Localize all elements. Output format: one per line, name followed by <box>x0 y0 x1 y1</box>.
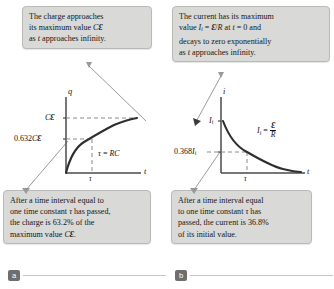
annotation-initial-current: Ii = ƐR <box>257 122 276 139</box>
leader-notch-top <box>218 72 224 78</box>
symbol-emf: Ɛ <box>37 134 41 143</box>
leader-notch-bottom <box>190 188 198 194</box>
leader-line-bottom <box>26 141 68 190</box>
charging-curve <box>66 118 137 173</box>
x-tick-label-tau: τ <box>244 175 247 182</box>
symbol-subscript-i: i <box>212 119 214 125</box>
panel-b-graphics <box>167 0 334 289</box>
figure-marker-a: a <box>8 270 166 281</box>
y-tick-label-max: CƐ <box>45 114 54 122</box>
symbol-emf: Ɛ <box>50 113 54 122</box>
figure-marker-b: b <box>175 270 333 281</box>
marker-rule-a <box>23 275 166 276</box>
marker-badge-a: a <box>8 270 20 281</box>
x-axis-label-text: t <box>307 167 309 176</box>
leader-line-top <box>89 66 146 121</box>
x-tick-label-tau: τ <box>89 175 92 182</box>
leader-notch-top <box>86 62 92 68</box>
annotation-tau-equals-rc: τ = RC <box>98 150 120 158</box>
leader-line-top <box>197 76 221 120</box>
panel-b-current: The current has its maximum value Ii = Ɛ… <box>167 0 334 289</box>
symbol-rc: RC <box>109 149 119 158</box>
symbol-resistance: R <box>270 130 277 139</box>
y-axis-label-text: q <box>68 87 72 96</box>
symbol-subscript-i: i <box>195 150 197 156</box>
symbol-tau: τ <box>244 174 247 183</box>
tick-coefficient: 0.368 <box>174 147 192 156</box>
equals-sign: = <box>261 126 270 135</box>
leader-notch-bottom <box>22 188 30 194</box>
marker-rule-b <box>190 275 333 276</box>
y-axis-label: q <box>68 88 72 96</box>
fraction-emf-over-r: ƐR <box>270 122 277 139</box>
symbol-tau: τ <box>89 174 92 183</box>
marker-badge-b: b <box>175 270 187 281</box>
x-axis-label-text: t <box>144 167 146 176</box>
leader-line-bottom <box>194 152 220 190</box>
y-tick-label-tau: 0.632CƐ <box>14 135 41 143</box>
x-axis-label: t <box>307 168 309 176</box>
y-axis-label-text: i <box>223 87 225 96</box>
panel-a-graphics <box>0 0 167 289</box>
panel-a-charge: The charge approaches its maximum value … <box>0 0 167 289</box>
symbol-emf: Ɛ <box>270 122 277 130</box>
y-tick-label-tau: 0.368Ii <box>174 148 196 157</box>
tick-coefficient: 0.632 <box>14 134 32 143</box>
y-axis-label: i <box>223 88 225 96</box>
x-axis-label: t <box>144 168 146 176</box>
y-tick-label-max: Ii <box>209 117 213 126</box>
